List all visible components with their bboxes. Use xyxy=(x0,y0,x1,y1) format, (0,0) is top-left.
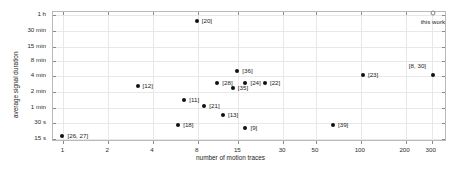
x-axis-tick-label: 15 xyxy=(234,147,241,153)
data-point-marker xyxy=(361,73,365,77)
y-axis-tick xyxy=(53,31,56,32)
y-gridline xyxy=(53,123,445,124)
y-gridline xyxy=(53,47,445,48)
data-point-label: [23] xyxy=(368,72,378,78)
x-axis-tick xyxy=(198,141,199,144)
y-axis-tick xyxy=(53,108,56,109)
x-axis-tick-label: 1 xyxy=(61,147,64,153)
x-axis-tick xyxy=(283,141,284,144)
x-axis-tick-label: 8 xyxy=(195,147,198,153)
y-axis-tick xyxy=(53,139,56,140)
data-point-label: [13] xyxy=(228,112,238,118)
data-point-label: [12] xyxy=(143,83,153,89)
data-point-label: [11] xyxy=(189,97,199,103)
y-axis-tick xyxy=(53,123,56,124)
y-axis-tick-right xyxy=(442,108,445,109)
y-gridline xyxy=(53,76,445,77)
y-axis-tick-right xyxy=(442,15,445,16)
y-gridline xyxy=(53,139,445,140)
y-axis-tick-right xyxy=(442,47,445,48)
x-axis-tick xyxy=(316,141,317,144)
y-axis-tick-right xyxy=(442,123,445,124)
y-gridline xyxy=(53,15,445,16)
data-point-label: [24] xyxy=(250,79,260,85)
x-axis-tick xyxy=(153,141,154,144)
y-axis-tick-label: 15 s xyxy=(0,135,46,141)
y-axis-tick-label: 30 s xyxy=(0,119,46,125)
data-point-marker xyxy=(60,134,64,138)
x-axis-tick-label: 2 xyxy=(106,147,109,153)
data-point-marker xyxy=(231,86,235,90)
data-point-marker xyxy=(195,19,199,23)
x-axis-tick xyxy=(432,141,433,144)
plot-area xyxy=(52,11,446,141)
data-point-marker xyxy=(235,69,239,73)
data-point-label: [35] xyxy=(238,84,248,90)
data-point-marker xyxy=(243,126,247,130)
y-gridline xyxy=(53,108,445,109)
data-point-label: [18] xyxy=(183,122,193,128)
y-axis-tick-label: 1 min xyxy=(0,103,46,109)
data-point-label: [26, 27] xyxy=(67,133,88,139)
y-axis-tick-label: 4 min xyxy=(0,72,46,78)
data-point-label: [22] xyxy=(270,79,280,85)
y-axis-tick-right xyxy=(442,31,445,32)
x-axis-title: number of motion traces xyxy=(0,155,461,161)
data-point-marker xyxy=(263,81,267,85)
data-point-marker xyxy=(202,104,206,108)
x-axis-tick xyxy=(361,141,362,144)
y-axis-tick-label: 2 min xyxy=(0,88,46,94)
y-axis-tick xyxy=(53,76,56,77)
x-axis-tick xyxy=(108,141,109,144)
y-axis-tick-label: 1 h xyxy=(0,11,46,17)
data-point-label: [21] xyxy=(209,103,219,109)
y-axis-tick xyxy=(53,61,56,62)
data-point-label: [9] xyxy=(250,125,257,131)
y-axis-tick xyxy=(53,47,56,48)
data-point-marker xyxy=(221,113,225,117)
y-gridline xyxy=(53,31,445,32)
y-axis-tick-label: 15 min xyxy=(0,43,46,49)
x-axis-tick xyxy=(406,141,407,144)
y-axis-tick-right xyxy=(442,139,445,140)
data-point-marker xyxy=(136,84,140,88)
data-point-label: [28] xyxy=(222,79,232,85)
y-axis-tick-label: 8 min xyxy=(0,57,46,63)
scatter-chart-figure: average signal duration number of motion… xyxy=(0,0,461,169)
y-gridline xyxy=(53,61,445,62)
data-point-label: [39] xyxy=(338,122,348,128)
x-axis-tick-label: 200 xyxy=(399,147,409,153)
data-point-marker xyxy=(176,123,180,127)
x-axis-tick xyxy=(63,141,64,144)
x-axis-tick-label: 50 xyxy=(312,147,319,153)
data-point-label: [20] xyxy=(202,18,212,24)
y-axis-tick xyxy=(53,15,56,16)
data-point-marker xyxy=(182,98,186,102)
x-axis-tick-label: 100 xyxy=(355,147,365,153)
y-axis-tick xyxy=(53,92,56,93)
x-axis-tick-label: 30 xyxy=(279,147,286,153)
y-axis-tick-right xyxy=(442,92,445,93)
data-point-marker xyxy=(430,10,435,15)
y-axis-tick-right xyxy=(442,61,445,62)
data-point-marker xyxy=(431,73,435,77)
data-point-label: [36] xyxy=(242,68,252,74)
x-axis-tick-label: 300 xyxy=(426,147,436,153)
data-point-label: [8, 30] xyxy=(409,63,426,69)
data-point-label: this work xyxy=(421,19,445,25)
x-axis-tick-label: 4 xyxy=(150,147,153,153)
y-gridline xyxy=(53,92,445,93)
y-axis-tick-right xyxy=(442,76,445,77)
x-axis-tick xyxy=(238,141,239,144)
data-point-marker xyxy=(215,81,219,85)
data-point-marker xyxy=(331,123,335,127)
y-axis-tick-label: 30 min xyxy=(0,27,46,33)
